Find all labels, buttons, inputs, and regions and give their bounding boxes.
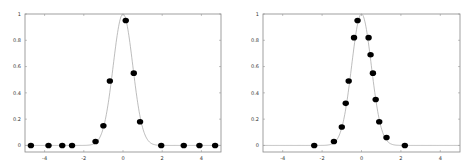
data-point-marker (402, 143, 408, 149)
data-point-marker (69, 143, 75, 149)
data-point-marker (339, 124, 345, 130)
x-tick-label: 0 (121, 155, 124, 161)
y-tick-label: 0 (256, 142, 259, 148)
x-tick-label: 4 (439, 155, 442, 161)
gaussian-curve-line (263, 14, 460, 145)
y-tick-label: 0.4 (251, 90, 259, 96)
x-tick-label: -4 (42, 155, 47, 161)
y-tick-label: 1 (18, 11, 21, 17)
data-point-marker (123, 18, 129, 24)
data-point-marker (365, 35, 371, 41)
plot-frame (25, 14, 221, 152)
y-tick-label: 0.8 (13, 37, 21, 43)
gaussian-curve-line (25, 14, 221, 145)
data-point-marker (158, 143, 164, 149)
x-tick-label: 4 (200, 155, 203, 161)
data-point-marker (367, 52, 373, 58)
data-point-marker (92, 139, 98, 145)
data-point-marker (131, 70, 137, 76)
y-tick-label: 0.8 (251, 37, 259, 43)
y-tick-label: 1 (256, 11, 259, 17)
data-point-marker (137, 119, 143, 125)
data-point-marker (345, 78, 351, 84)
data-point-marker (376, 119, 382, 125)
x-tick-label: 2 (161, 155, 164, 161)
data-point-marker (212, 143, 218, 149)
data-point-marker (311, 143, 317, 149)
data-point-marker (331, 139, 337, 145)
data-point-marker (370, 70, 376, 76)
data-point-marker (383, 135, 389, 141)
figure: 00.20.40.60.81-4-202400.20.40.60.81-4-20… (0, 0, 476, 168)
x-tick-label: 0 (360, 155, 363, 161)
y-tick-label: 0.6 (13, 63, 21, 69)
x-tick-label: -2 (320, 155, 325, 161)
data-point-marker (100, 123, 106, 129)
x-tick-label: -4 (280, 155, 285, 161)
y-tick-label: 0.2 (13, 116, 21, 122)
x-tick-label: 2 (399, 155, 402, 161)
data-point-marker (372, 97, 378, 103)
chart-panel-2: 00.20.40.60.81-4-2024 (251, 11, 460, 161)
data-point-marker (354, 18, 360, 24)
data-point-marker (107, 78, 113, 84)
data-point-marker (28, 143, 34, 149)
data-point-marker (181, 143, 187, 149)
chart-panel-1: 00.20.40.60.81-4-2024 (13, 11, 221, 161)
data-point-marker (196, 143, 202, 149)
data-point-marker (59, 143, 65, 149)
y-tick-label: 0.6 (251, 63, 259, 69)
x-tick-label: -2 (81, 155, 86, 161)
data-point-marker (343, 101, 349, 107)
plot-frame (263, 14, 460, 152)
two-panel-gaussian-scatter-plot: 00.20.40.60.81-4-202400.20.40.60.81-4-20… (0, 0, 476, 168)
y-tick-label: 0 (18, 142, 21, 148)
y-tick-label: 0.2 (251, 116, 259, 122)
y-tick-label: 0.4 (13, 90, 21, 96)
data-point-marker (351, 35, 357, 41)
data-point-marker (45, 143, 51, 149)
